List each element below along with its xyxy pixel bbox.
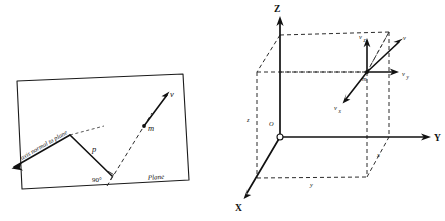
velocity-y-label: v bbox=[402, 70, 405, 77]
p-segment bbox=[70, 135, 112, 176]
mass-label-m: m bbox=[148, 123, 154, 133]
normal-axis-dash-extension bbox=[70, 126, 104, 135]
x-axis-arrowhead bbox=[244, 189, 252, 199]
plane-parallelogram bbox=[17, 74, 189, 189]
particle-dot-m bbox=[365, 70, 369, 74]
velocity-resultant-line bbox=[367, 42, 399, 72]
box-edge-bottom-front bbox=[257, 177, 367, 178]
x-axis-label: X bbox=[235, 203, 242, 213]
cartesian-velocity-components-diagram: Z Y X O z y x m v v z v y v x bbox=[222, 0, 445, 221]
figure-root: axis normal to plane p 90° m v Plane bbox=[0, 0, 445, 221]
axis-normal-label: axis normal to plane bbox=[19, 128, 68, 161]
velocity-x-label-subscript: x bbox=[338, 108, 342, 114]
dim-x-label: x bbox=[376, 151, 380, 158]
box-edge-top-left-diag bbox=[257, 35, 280, 72]
x-axis-line bbox=[247, 137, 280, 193]
y-axis-label: Y bbox=[434, 133, 441, 143]
velocity-x-label: v bbox=[334, 104, 337, 111]
normal-axis-line bbox=[14, 135, 70, 167]
plane-label: Plane bbox=[147, 173, 165, 182]
velocity-y-label-group: v y bbox=[402, 70, 410, 80]
origin-label: O bbox=[269, 120, 274, 127]
dim-y-label: y bbox=[309, 181, 313, 188]
velocity-z-label: v bbox=[359, 33, 362, 40]
velocity-z-label-group: v z bbox=[359, 33, 367, 43]
angle-90-label: 90° bbox=[92, 176, 102, 184]
dim-z-label: z bbox=[246, 116, 250, 123]
velocity-label-v: v bbox=[403, 34, 406, 41]
particle-dot-m bbox=[142, 124, 146, 128]
box-edge-top-back bbox=[280, 32, 389, 35]
velocity-vector-line bbox=[144, 95, 167, 126]
mass-label-m: m bbox=[362, 75, 367, 82]
velocity-label-v: v bbox=[170, 89, 174, 99]
p-label: p bbox=[91, 144, 96, 154]
z-axis-label: Z bbox=[274, 4, 280, 14]
origin-marker bbox=[277, 134, 283, 140]
guide-m-to-top-back bbox=[367, 32, 389, 72]
velocity-y-label-subscript: y bbox=[406, 74, 410, 80]
velocity-x-label-group: v x bbox=[334, 104, 342, 114]
plane-normal-axis-diagram: axis normal to plane p 90° m v Plane bbox=[0, 0, 222, 221]
